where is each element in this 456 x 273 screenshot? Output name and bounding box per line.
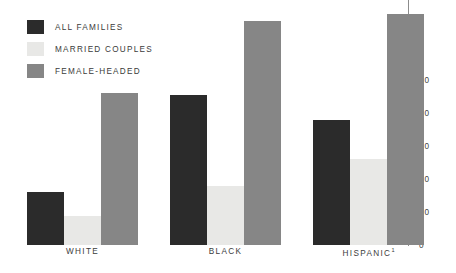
bar-white-female-headed <box>101 93 138 245</box>
bar-group-hispanic-bars <box>313 0 424 245</box>
bar-hispanic-all-families <box>313 120 350 245</box>
bar-black-female-headed <box>244 21 281 245</box>
bar-group-hispanic: HISPANIC1 <box>313 0 424 245</box>
x-label-white-text: WHITE <box>66 247 99 256</box>
x-label-black: BLACK <box>170 247 281 256</box>
bar-white-all-families <box>27 192 64 245</box>
x-label-white: WHITE <box>27 247 138 256</box>
bar-group-white-bars <box>27 0 138 245</box>
bar-hispanic-female-headed <box>387 14 424 245</box>
bar-group-white: WHITE <box>27 0 138 245</box>
x-label-black-text: BLACK <box>209 247 243 256</box>
bar-hispanic-married-couples <box>350 159 387 245</box>
x-label-hispanic-footnote: 1 <box>391 247 394 253</box>
plot-area: 0 10 20 30 40 50 WHITE BLACK <box>0 0 456 273</box>
bar-white-married-couples <box>64 216 101 245</box>
x-label-hispanic-text: HISPANIC <box>343 249 392 258</box>
bar-group-black: BLACK <box>170 0 281 245</box>
bar-group-black-bars <box>170 0 281 245</box>
bar-black-married-couples <box>207 186 244 245</box>
x-label-hispanic: HISPANIC1 <box>313 247 424 258</box>
bar-chart-figure: ALL FAMILIES MARRIED COUPLES FEMALE-HEAD… <box>0 0 456 273</box>
bar-black-all-families <box>170 95 207 245</box>
